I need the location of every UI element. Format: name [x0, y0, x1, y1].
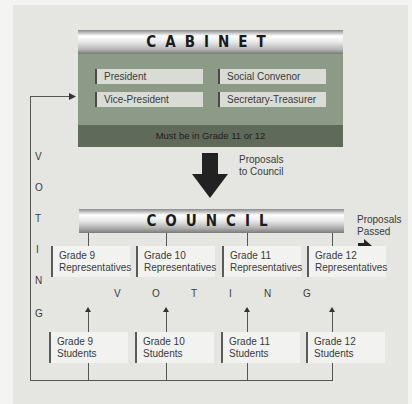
feedback-loop-bottom [30, 380, 333, 381]
down-arrow-icon [190, 150, 230, 200]
vote-arrow-line [166, 310, 167, 332]
proposals-to-council-label: Proposals to Council [239, 154, 283, 178]
connector-line [88, 233, 89, 247]
grade-10-students: Grade 10Students [135, 332, 214, 363]
voting-letter-vertical: I [36, 244, 39, 255]
grade-12-students: Grade 12Students [306, 332, 385, 363]
grade-11-representatives: Grade 11Representatives [222, 246, 301, 277]
arrow-up-icon [163, 307, 169, 312]
voting-letter-vertical: N [35, 275, 42, 286]
connector-line [88, 363, 89, 380]
feedback-loop-left [30, 96, 31, 381]
voting-letter-vertical: T [35, 213, 41, 224]
connector-line [166, 233, 167, 247]
connector-line [332, 363, 333, 380]
role-social-convenor: Social Convenor [218, 69, 326, 84]
cabinet-box: CABINET President Social Convenor Vice-P… [78, 30, 343, 147]
arrow-right-icon [69, 93, 77, 100]
voting-letter: V [114, 288, 121, 299]
grade-10-representatives: Grade 10Representatives [136, 246, 215, 277]
voting-letter-vertical: O [35, 182, 43, 193]
cabinet-title: CABINET [78, 30, 343, 54]
voting-letter-vertical: V [35, 151, 42, 162]
voting-letter: I [229, 288, 232, 299]
voting-letter-vertical: G [35, 308, 43, 319]
voting-letter: T [191, 288, 197, 299]
grade-9-representatives: Grade 9Representatives [51, 246, 130, 277]
vote-arrow-line [247, 310, 248, 332]
vote-arrow-line [88, 310, 89, 332]
connector-line [247, 363, 248, 380]
role-vice-president: Vice-President [95, 92, 203, 107]
voting-letter: N [264, 288, 271, 299]
arrow-up-icon [329, 307, 335, 312]
arrow-up-icon [85, 307, 91, 312]
voting-letter: O [152, 288, 160, 299]
role-president: President [95, 69, 203, 84]
grade-12-representatives: Grade 12Representatives [307, 246, 386, 277]
voting-letter: G [303, 288, 311, 299]
vote-arrow-line [332, 310, 333, 332]
connector-line [166, 363, 167, 380]
arrow-up-icon [244, 307, 250, 312]
cabinet-requirement: Must be in Grade 11 or 12 [78, 125, 343, 147]
connector-line [247, 233, 248, 247]
role-secretary-treasurer: Secretary-Treasurer [218, 92, 326, 107]
council-title: COUNCIL [79, 209, 344, 233]
feedback-loop-top [30, 96, 72, 97]
proposals-passed-label: Proposals Passed [357, 214, 401, 238]
grade-11-students: Grade 11Students [221, 332, 300, 363]
grade-9-students: Grade 9Students [49, 332, 128, 363]
connector-line [332, 233, 333, 247]
